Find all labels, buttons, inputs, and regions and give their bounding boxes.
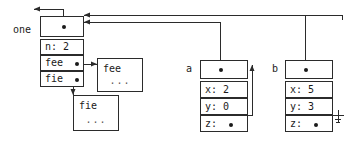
pointer-dot-icon [62,25,66,29]
b-field-z[interactable]: z: [285,115,333,132]
object-fee-ellipsis: ... [98,76,142,86]
object-fie[interactable]: fie ... [73,95,119,131]
object-fee-name: fee [103,64,121,74]
object-fee[interactable]: fee ... [97,58,143,92]
a-pointer-cell[interactable] [200,60,248,79]
a-field-x: x: 2 [200,81,248,98]
b-pointer-cell[interactable] [285,60,333,79]
one-pointer-cell[interactable] [40,16,84,37]
a-field-y: y: 0 [200,98,248,115]
one-field-fee-label: fee [45,58,63,68]
pointer-dot-icon [314,123,318,127]
b-field-x: x: 5 [285,81,333,98]
pointer-dot-icon [219,68,223,72]
object-fie-name: fie [79,101,97,111]
node-label-a: a [186,64,192,74]
a-field-z[interactable]: z: [200,115,248,132]
pointer-dot-icon [304,68,308,72]
object-fie-ellipsis: ... [74,115,118,125]
one-field-fie[interactable]: fie [40,71,84,87]
b-field-z-label: z: [290,119,302,129]
pointer-dot-icon [75,78,79,82]
one-field-n: n: 2 [40,39,84,55]
wire-b-to-one [84,15,342,20]
pointer-dot-icon [75,62,79,66]
diagram-canvas: one n: 2 fee fie fee ... fie ... a x: 2 … [0,0,359,143]
one-field-fie-label: fie [45,74,63,84]
pointer-dot-icon [229,123,233,127]
b-field-y: y: 3 [285,98,333,115]
node-label-one: one [13,25,31,35]
a-field-z-label: z: [205,119,217,129]
one-field-fee[interactable]: fee [40,55,84,71]
wire-a-z-to-b [248,65,252,115]
node-label-b: b [272,64,278,74]
